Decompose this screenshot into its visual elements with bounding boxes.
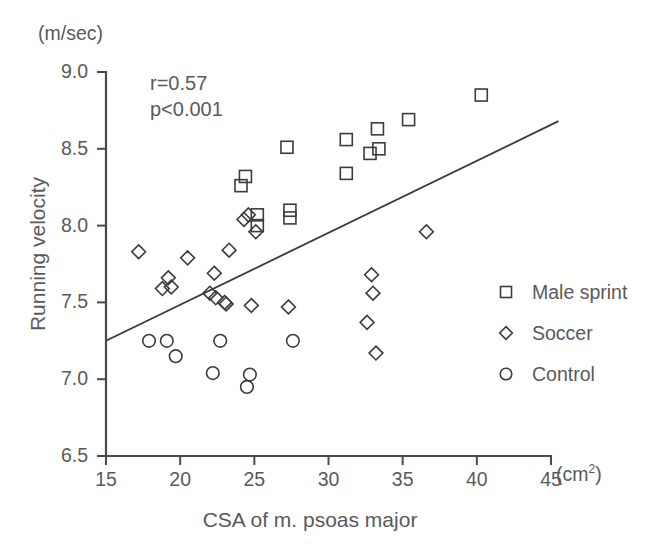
data-point bbox=[366, 286, 380, 300]
legend-marker-circle bbox=[500, 368, 512, 380]
data-point bbox=[214, 335, 227, 348]
axes bbox=[106, 72, 551, 456]
legend-marker-diamond bbox=[500, 327, 513, 340]
data-point bbox=[287, 335, 300, 348]
data-point bbox=[207, 266, 221, 280]
x-tick-label: 40 bbox=[455, 468, 499, 491]
data-point bbox=[364, 147, 376, 159]
x-tick-label: 35 bbox=[381, 468, 425, 491]
series-male-sprint bbox=[235, 89, 487, 232]
x-tick-label: 15 bbox=[84, 468, 128, 491]
data-point bbox=[222, 243, 236, 257]
series-soccer bbox=[132, 208, 434, 360]
data-point bbox=[360, 315, 374, 329]
y-tick-label: 7.0 bbox=[32, 367, 88, 390]
data-point bbox=[207, 367, 220, 380]
data-point bbox=[475, 89, 487, 101]
x-tick-label: 25 bbox=[232, 468, 276, 491]
data-point bbox=[403, 114, 415, 126]
regression-trend-line bbox=[106, 121, 558, 341]
x-axis-ticks bbox=[106, 456, 551, 465]
data-point bbox=[132, 245, 146, 259]
series-control bbox=[143, 335, 299, 394]
data-point bbox=[373, 143, 385, 155]
y-tick-label: 9.0 bbox=[32, 60, 88, 83]
scatter-plot-figure: (m/sec) Running velocity CSA of m. psoas… bbox=[0, 0, 654, 557]
x-tick-label: 20 bbox=[158, 468, 202, 491]
data-point bbox=[282, 300, 296, 314]
x-tick-label: 45 bbox=[529, 468, 573, 491]
legend-markers bbox=[500, 287, 513, 380]
data-point bbox=[244, 299, 258, 313]
data-point bbox=[369, 346, 383, 360]
regression-line bbox=[106, 121, 558, 341]
data-point bbox=[239, 170, 251, 182]
data-point bbox=[420, 225, 434, 239]
y-tick-label: 8.0 bbox=[32, 214, 88, 237]
data-point bbox=[340, 134, 352, 146]
data-point bbox=[284, 212, 296, 224]
x-tick-label: 30 bbox=[307, 468, 351, 491]
data-point bbox=[340, 167, 352, 179]
data-point bbox=[244, 368, 257, 381]
legend-marker-square bbox=[501, 287, 512, 298]
data-point bbox=[284, 204, 296, 216]
data-point bbox=[281, 141, 293, 153]
y-tick-label: 8.5 bbox=[32, 137, 88, 160]
y-tick-label: 6.5 bbox=[32, 444, 88, 467]
legend-label: Soccer bbox=[532, 322, 593, 345]
data-point bbox=[237, 213, 251, 227]
y-axis-ticks bbox=[97, 72, 106, 456]
data-point bbox=[241, 381, 254, 394]
data-point bbox=[143, 335, 156, 348]
data-point bbox=[365, 268, 379, 282]
data-point bbox=[235, 180, 247, 192]
y-tick-label: 7.5 bbox=[32, 290, 88, 313]
data-point bbox=[169, 350, 182, 363]
legend-label: Male sprint bbox=[532, 281, 627, 304]
data-point bbox=[371, 123, 383, 135]
data-point bbox=[181, 251, 195, 265]
data-point bbox=[161, 335, 174, 348]
legend-label: Control bbox=[532, 363, 595, 386]
